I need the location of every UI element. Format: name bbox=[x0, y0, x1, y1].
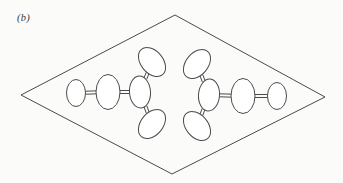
bond-r2-r3 bbox=[219, 94, 231, 97]
atom-ellipse-l5 bbox=[133, 104, 171, 143]
atom-ellipse-r5 bbox=[178, 106, 216, 145]
atom-ellipse-r1 bbox=[268, 83, 287, 110]
bond-l2-l3 bbox=[120, 91, 129, 94]
molecular-diagram-canvas bbox=[0, 0, 343, 183]
atom-ellipse-r2 bbox=[231, 79, 255, 114]
atom-ellipse-r3 bbox=[197, 78, 220, 111]
bond-r1-r2 bbox=[255, 95, 268, 98]
atom-ellipse-r4 bbox=[178, 44, 216, 83]
atom-ellipse-l1 bbox=[67, 80, 86, 107]
panel-label: (b) bbox=[17, 13, 30, 24]
atom-ellipse-l3 bbox=[128, 75, 151, 108]
bond-l1-l2 bbox=[85, 91, 96, 94]
figure-panel: (b) bbox=[0, 0, 343, 183]
atom-ellipse-l2 bbox=[96, 75, 120, 110]
